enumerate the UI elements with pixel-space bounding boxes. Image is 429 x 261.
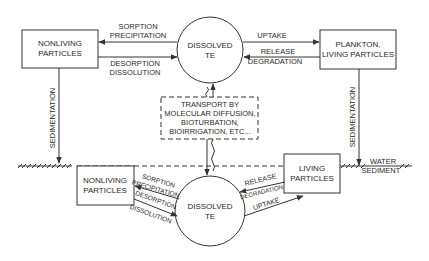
- water-plankton-node: PLANKTON, LIVING PARTICLES: [320, 30, 396, 69]
- water-nonliving-particles-node: NONLIVING PARTICLES: [22, 30, 98, 68]
- transport-label: MOLECULAR DIFFUSION,: [164, 109, 255, 118]
- transport-process-box: TRANSPORT BY MOLECULAR DIFFUSION, BIOTUR…: [161, 97, 258, 139]
- node-label: PARTICLES: [83, 186, 127, 195]
- node-label: LIVING: [299, 164, 325, 173]
- arrow-label: RELEASE: [261, 47, 296, 56]
- arrow-label: DISSOLUTION: [110, 68, 161, 77]
- arrow-label: SEDIMENTATION: [48, 88, 57, 149]
- node-label: DISSOLVED: [187, 202, 232, 211]
- uptake-arrow: UPTAKE: [243, 31, 319, 42]
- sedimentation-right-arrow: SEDIMENTATION: [348, 69, 359, 165]
- arrow-label: DESORPTION: [110, 59, 160, 68]
- sedimentation-left-arrow: SEDIMENTATION: [48, 68, 59, 163]
- transport-label: BIOTURBATION,: [181, 118, 239, 127]
- node-label: DISSOLVED: [187, 41, 232, 50]
- node-label: TE: [205, 51, 215, 60]
- arrow-label: PRECIPITATION: [110, 31, 166, 40]
- water-dissolved-te-node: DISSOLVED TE: [177, 17, 243, 83]
- arrow-label: SEDIMENTATION: [348, 87, 357, 148]
- transport-arrows-top: [206, 84, 214, 97]
- transport-label: BIOIRRIGATION, ETC...: [169, 127, 251, 136]
- water-label: WATER: [370, 157, 397, 166]
- node-label: NONLIVING: [38, 39, 82, 48]
- sediment-label: SEDIMENT: [362, 166, 401, 175]
- node-label: NONLIVING: [83, 176, 127, 185]
- node-label: PARTICLES: [38, 49, 82, 58]
- sediment-living-particles-node: LIVING PARTICLES: [284, 154, 340, 193]
- trace-element-cycle-diagram: NONLIVING PARTICLES DISSOLVED TE PLANKTO…: [0, 0, 429, 261]
- desorption-arrow: DESORPTION DISSOLUTION: [98, 57, 177, 77]
- node-label: PARTICLES: [290, 174, 334, 183]
- node-label: TE: [205, 212, 215, 221]
- sediment-nonliving-particles-node: NONLIVING PARTICLES: [77, 166, 134, 205]
- transport-arrows-bottom: [207, 139, 215, 175]
- release-arrow: RELEASE DEGRADATION: [244, 47, 320, 66]
- arrow-label: SORPTION: [118, 22, 157, 31]
- node-label: PLANKTON,: [335, 40, 380, 49]
- sediment-dissolved-te-node: DISSOLVED TE: [175, 176, 245, 246]
- arrow-label: DEGRADATION: [248, 57, 302, 66]
- sediment-hatch-left: [18, 164, 72, 168]
- node-label: LIVING PARTICLES: [322, 50, 394, 59]
- sorption-arrow: SORPTION PRECIPITATION: [99, 22, 177, 42]
- sediment-uptake-arrow: UPTAKE: [244, 196, 303, 216]
- arrow-label: UPTAKE: [257, 31, 286, 40]
- transport-label: TRANSPORT BY: [181, 100, 239, 109]
